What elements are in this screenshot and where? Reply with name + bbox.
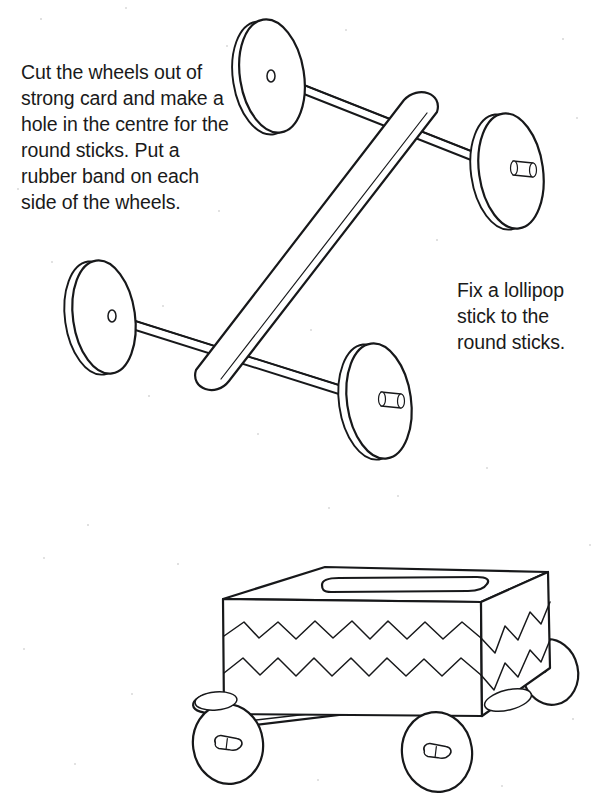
instruction-text-fix-lollipop-stick: Fix a lollipop stick to the round sticks… (457, 277, 596, 355)
card-wheel-bottom-left (57, 256, 142, 379)
card-wheel-bottom-right (331, 339, 419, 464)
tissue-slot (322, 577, 488, 592)
lollipop-stick (195, 92, 438, 390)
card-wheel-top-right (463, 109, 551, 234)
instruction-text-cut-wheels: Cut the wheels out of strong card and ma… (21, 59, 231, 215)
card-wheel-top-left (224, 15, 312, 140)
instruction-page: .ink { fill:none; stroke:#17181a; stroke… (0, 0, 596, 796)
axle-end-top-right (511, 161, 537, 177)
axle-end-bottom-right (379, 392, 405, 408)
finished-tissue-box-car-diagram (188, 567, 584, 796)
rear-near-wheel (397, 708, 477, 796)
